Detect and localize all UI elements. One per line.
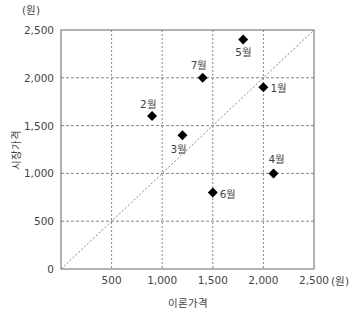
x-axis-ticks: 5001,0001,5002,0002,500 — [102, 274, 329, 286]
x-tick-label: 1,000 — [147, 274, 177, 286]
diamond-marker-icon — [198, 73, 208, 83]
y-tick-label: 1,500 — [24, 120, 54, 132]
y-tick-label: 500 — [34, 215, 54, 227]
data-point: 7월 — [191, 59, 208, 83]
data-point: 6월 — [208, 188, 237, 200]
x-tick-label: 2,000 — [248, 274, 278, 286]
data-point: 3월 — [170, 130, 187, 155]
point-label: 4월 — [269, 153, 286, 165]
diamond-marker-icon — [269, 168, 279, 178]
point-label: 3월 — [170, 143, 187, 155]
y-axis-title: 시장가격 — [10, 130, 22, 170]
data-point: 5월 — [235, 35, 252, 58]
y-axis-ticks: 05001,0001,5002,0002,500 — [24, 24, 54, 275]
diamond-marker-icon — [208, 188, 218, 198]
reference-diagonal — [61, 30, 314, 269]
x-tick-label: 2,500 — [299, 274, 329, 286]
point-label: 7월 — [191, 59, 208, 71]
y-axis-unit: (원) — [22, 4, 40, 16]
x-tick-label: 1,500 — [198, 274, 228, 286]
diamond-marker-icon — [177, 130, 187, 140]
point-label: 1월 — [270, 82, 287, 94]
y-tick-label: 1,000 — [24, 167, 54, 179]
point-label: 5월 — [235, 46, 252, 58]
point-label: 6월 — [220, 188, 237, 200]
diamond-marker-icon — [258, 82, 268, 92]
data-point: 1월 — [258, 82, 287, 94]
y-tick-label: 2,000 — [24, 72, 54, 84]
y-tick-label: 0 — [47, 263, 54, 275]
point-label: 2월 — [140, 98, 157, 110]
diamond-marker-icon — [147, 111, 157, 121]
data-point: 2월 — [140, 98, 157, 121]
diamond-marker-icon — [238, 35, 248, 45]
x-tick-label: 500 — [102, 274, 122, 286]
data-point: 4월 — [269, 153, 286, 178]
x-axis-unit: (원) — [331, 275, 349, 287]
scatter-chart: 05001,0001,5002,0002,500 5001,0001,5002,… — [0, 0, 362, 312]
y-tick-label: 2,500 — [24, 24, 54, 36]
x-axis-title: 이론가격 — [168, 297, 208, 309]
